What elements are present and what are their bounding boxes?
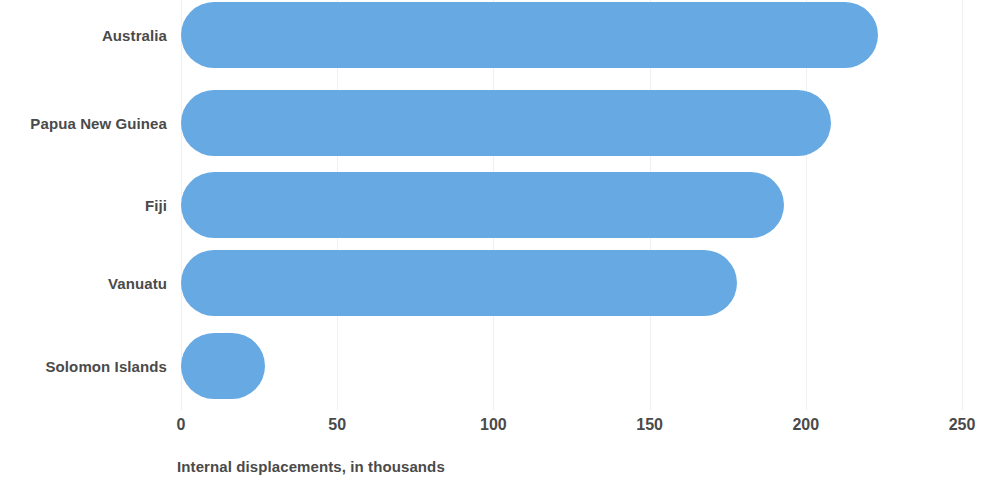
category-label-papua-new-guinea: Papua New Guinea xyxy=(0,115,167,132)
bar-vanuatu[interactable] xyxy=(181,250,737,316)
bar-solomon-islands[interactable] xyxy=(181,333,265,399)
bar-papua-new-guinea[interactable] xyxy=(181,90,831,156)
bar-chart: Australia Papua New Guinea Fiji Vanuatu … xyxy=(0,0,1002,484)
bar-fiji[interactable] xyxy=(181,172,784,238)
bar-australia[interactable] xyxy=(181,2,878,68)
x-tick-label-0: 0 xyxy=(141,416,221,434)
x-tick-label-250: 250 xyxy=(922,416,1002,434)
x-axis-title: Internal displacements, in thousands xyxy=(177,458,445,475)
category-label-fiji: Fiji xyxy=(0,197,167,214)
x-tick-label-100: 100 xyxy=(453,416,533,434)
category-label-vanuatu: Vanuatu xyxy=(0,275,167,292)
x-tick-label-50: 50 xyxy=(297,416,377,434)
category-label-australia: Australia xyxy=(0,27,167,44)
x-tick-label-200: 200 xyxy=(766,416,846,434)
x-tick-label-150: 150 xyxy=(610,416,690,434)
gridline-250 xyxy=(962,0,963,410)
category-label-solomon-islands: Solomon Islands xyxy=(0,358,167,375)
plot-area xyxy=(181,0,962,410)
